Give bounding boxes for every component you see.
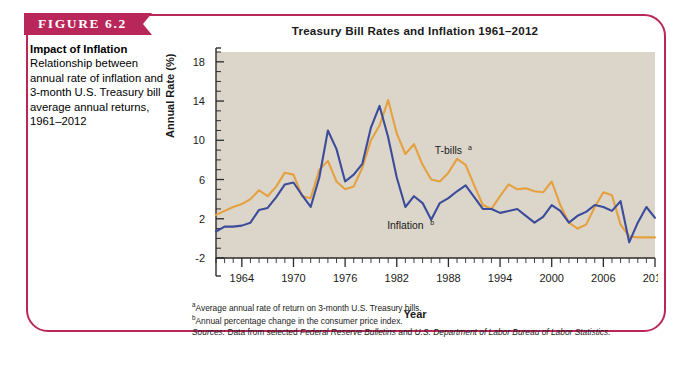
y-axis-title: Annual Rate (%) [164,54,176,138]
chart-title: Treasury Bill Rates and Inflation 1961–2… [172,24,658,37]
y-axis-tick-label: 14 [193,95,205,107]
footnote-a-text: Average annual rate of return on 3-month… [196,303,422,313]
x-axis-tick-label: 1988 [436,272,460,284]
x-axis-tick-label: 1970 [281,272,305,284]
x-axis-tick-label: 1982 [385,272,409,284]
chart-area: Treasury Bill Rates and Inflation 1961–2… [172,18,658,318]
y-axis-tick-label: 18 [193,56,205,68]
caption-body: Relationship between annual rate of infl… [30,57,163,127]
plot-wrapper: Annual Rate (%) 18141062-219641970197619… [172,42,658,292]
y-axis-tick-label: 10 [193,134,205,146]
footnote-b: bAnnual percentage change in the consume… [192,313,611,326]
figure-number-label: FIGURE 6.2 [38,16,127,32]
series-label-text: Inflation [387,220,424,231]
figure-footnotes: aAverage annual rate of return on 3-mont… [192,300,611,337]
x-axis-tick-label: 1964 [230,272,254,284]
x-axis-tick-label: 1976 [333,272,357,284]
series-label-superscript: a [468,144,472,151]
figure-banner: FIGURE 6.2 [24,13,143,35]
line-chart-svg: 18141062-2196419701976198219881994200020… [172,42,658,292]
footnote-sources: Sources: Data from selected Federal Rese… [192,327,611,338]
x-axis-tick-label: 2000 [539,272,563,284]
footnote-a: aAverage annual rate of return on 3-mont… [192,300,611,313]
x-axis-tick-label: 2006 [591,272,615,284]
series-label-text: T-bills [435,145,462,156]
sources-text-2: and [396,327,415,337]
sources-text-1: Data from selected [225,327,300,337]
x-axis-tick-label: 1994 [488,272,512,284]
sources-italic-2: U.S. Department of Labor Bureau of Labor… [415,327,611,337]
footnote-b-text: Annual percentage change in the consumer… [196,316,403,326]
figure-caption: Impact of Inflation Relationship between… [30,42,168,128]
banner-arrow-shape [143,13,152,35]
caption-title: Impact of Inflation [30,43,127,55]
x-axis-tick-label: 2012 [643,272,658,284]
series-label-superscript: b [430,219,434,226]
sources-italic-1: Federal Reserve Bulletins [300,327,396,337]
y-axis-tick-label: -2 [195,252,205,264]
y-axis-tick-label: 2 [199,213,205,225]
y-axis-tick-label: 6 [199,174,205,186]
figure-root: FIGURE 6.2 Impact of Inflation Relations… [0,0,691,367]
sources-label: Sources: [192,327,225,337]
